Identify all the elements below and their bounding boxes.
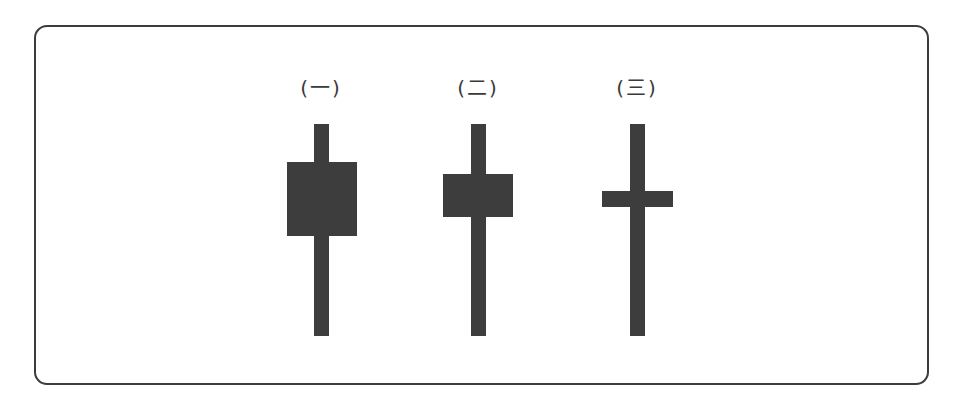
candle-2-body <box>443 174 513 217</box>
candle-2-wick <box>471 124 486 336</box>
candle-3-body <box>602 191 673 207</box>
candle-label-1: (一) <box>271 74 371 102</box>
candle-label-3: (三) <box>587 74 687 102</box>
candle-1-body <box>287 162 357 236</box>
candle-label-2: (二) <box>428 74 528 102</box>
candle-3-wick <box>630 124 645 336</box>
